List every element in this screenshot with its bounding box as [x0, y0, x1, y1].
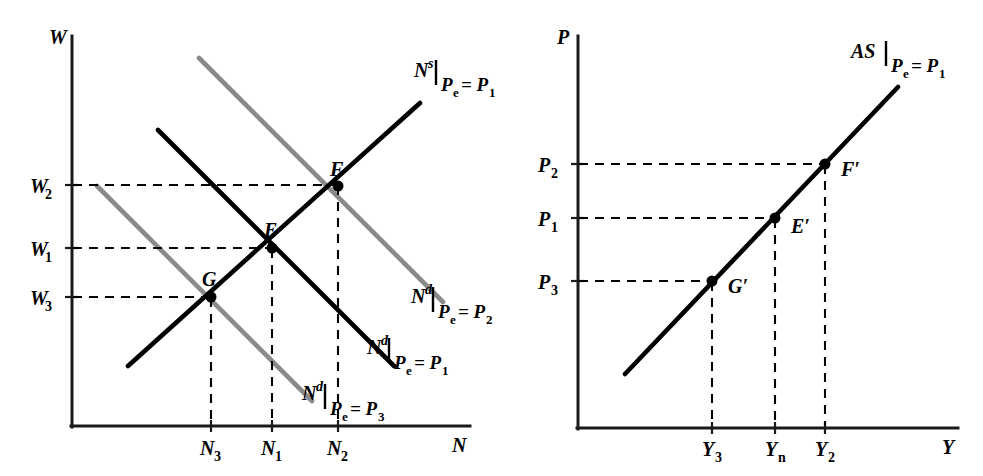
- svg-text:1: 1: [939, 66, 946, 81]
- right-x-tick-label-y3: Y 3: [702, 438, 722, 465]
- svg-text:AS: AS: [849, 40, 875, 62]
- right-y-axis-title: P: [556, 26, 570, 48]
- right-x-axis-title: Y: [942, 436, 956, 458]
- svg-text:= P: = P: [350, 398, 378, 419]
- point-label-g: G: [202, 268, 217, 290]
- left-x-axis-title: N: [451, 434, 468, 456]
- svg-text:2: 2: [486, 312, 493, 327]
- right-y-tick-label-p3: P 3: [537, 271, 558, 298]
- svg-text:1: 1: [45, 250, 52, 265]
- svg-text:3: 3: [378, 409, 385, 424]
- svg-text:e: e: [342, 409, 348, 424]
- left-panel-labor-market: W N W 2 W 1 W 3 N 3 N 1: [30, 26, 496, 464]
- svg-text:2: 2: [341, 449, 348, 464]
- point-label-g-prime: G′: [728, 275, 748, 297]
- left-y-tick-label-w2: W 2: [30, 175, 52, 202]
- svg-text:1: 1: [489, 85, 496, 100]
- figure-root: W N W 2 W 1 W 3 N 3 N 1: [0, 0, 983, 476]
- point-label-f: F: [329, 158, 344, 180]
- right-y-tick-label-p2: P 2: [537, 154, 558, 181]
- svg-text:s: s: [427, 56, 434, 71]
- curve-label-as-pe-p1: AS P e = P 1: [849, 40, 946, 81]
- svg-text:P: P: [329, 398, 342, 419]
- point-dot-g-prime: [707, 276, 718, 287]
- svg-text:2: 2: [828, 450, 835, 465]
- left-y-tick-label-w3: W 3: [30, 287, 52, 314]
- point-dot-g: [206, 292, 217, 303]
- svg-text:e: e: [406, 363, 412, 378]
- curve-label-nd-pe-p3: N d P e = P 3: [301, 379, 385, 424]
- left-x-tick-label-n1: N 1: [260, 437, 282, 464]
- curve-nd-pe-p3: [97, 186, 312, 401]
- left-y-tick-label-w1: W 1: [30, 238, 52, 265]
- svg-text:d: d: [316, 379, 324, 394]
- svg-text:= P: = P: [461, 74, 489, 95]
- svg-text:3: 3: [715, 450, 722, 465]
- left-x-tick-label-n3: N 3: [199, 437, 221, 464]
- right-y-tick-label-p1: P 1: [537, 208, 558, 235]
- svg-text:e: e: [453, 85, 459, 100]
- right-panel-aggregate-supply: P Y P 2 P 1 P 3 Y 3 Y n: [537, 26, 958, 465]
- svg-text:P: P: [537, 208, 551, 230]
- svg-text:e: e: [903, 66, 909, 81]
- svg-text:3: 3: [214, 449, 221, 464]
- curve-label-ns-pe-p1: N s P e = P 1: [413, 56, 496, 100]
- point-dot-e-prime: [770, 213, 781, 224]
- point-dot-f: [333, 181, 344, 192]
- svg-text:= P: = P: [911, 55, 939, 76]
- svg-text:1: 1: [551, 220, 558, 235]
- right-x-tick-label-yn: Y n: [765, 438, 786, 465]
- right-x-tick-label-y2: Y 2: [815, 438, 835, 465]
- curve-nd-pe-p2: [199, 58, 443, 302]
- svg-text:P: P: [890, 55, 903, 76]
- diagram-canvas: W N W 2 W 1 W 3 N 3 N 1: [0, 0, 983, 476]
- curve-label-nd-pe-p1: N d P e = P 1: [366, 333, 449, 378]
- svg-text:P: P: [537, 271, 551, 293]
- svg-text:Y: Y: [765, 438, 779, 460]
- svg-text:Y: Y: [815, 438, 829, 460]
- svg-text:= P: = P: [458, 301, 486, 322]
- svg-text:2: 2: [551, 166, 558, 181]
- svg-text:1: 1: [275, 449, 282, 464]
- point-label-f-prime: F′: [840, 158, 860, 180]
- svg-text:P: P: [537, 154, 551, 176]
- svg-text:n: n: [778, 450, 786, 465]
- curve-as-pe-p1: [625, 87, 898, 374]
- svg-text:2: 2: [45, 187, 52, 202]
- svg-text:P: P: [393, 352, 406, 373]
- svg-text:3: 3: [551, 283, 558, 298]
- svg-text:= P: = P: [414, 352, 442, 373]
- point-label-e-prime: E′: [790, 215, 810, 237]
- left-x-tick-label-n2: N 2: [326, 437, 348, 464]
- point-dot-e: [267, 243, 278, 254]
- point-dot-f-prime: [820, 159, 831, 170]
- left-y-axis-title: W: [49, 26, 68, 48]
- svg-text:3: 3: [45, 299, 52, 314]
- svg-text:P: P: [440, 74, 453, 95]
- curve-label-nd-pe-p2: N d P e = P 2: [410, 282, 493, 327]
- svg-text:P: P: [437, 301, 450, 322]
- svg-text:e: e: [450, 312, 456, 327]
- svg-text:1: 1: [442, 363, 449, 378]
- point-label-e: E: [263, 219, 277, 241]
- svg-text:Y: Y: [702, 438, 716, 460]
